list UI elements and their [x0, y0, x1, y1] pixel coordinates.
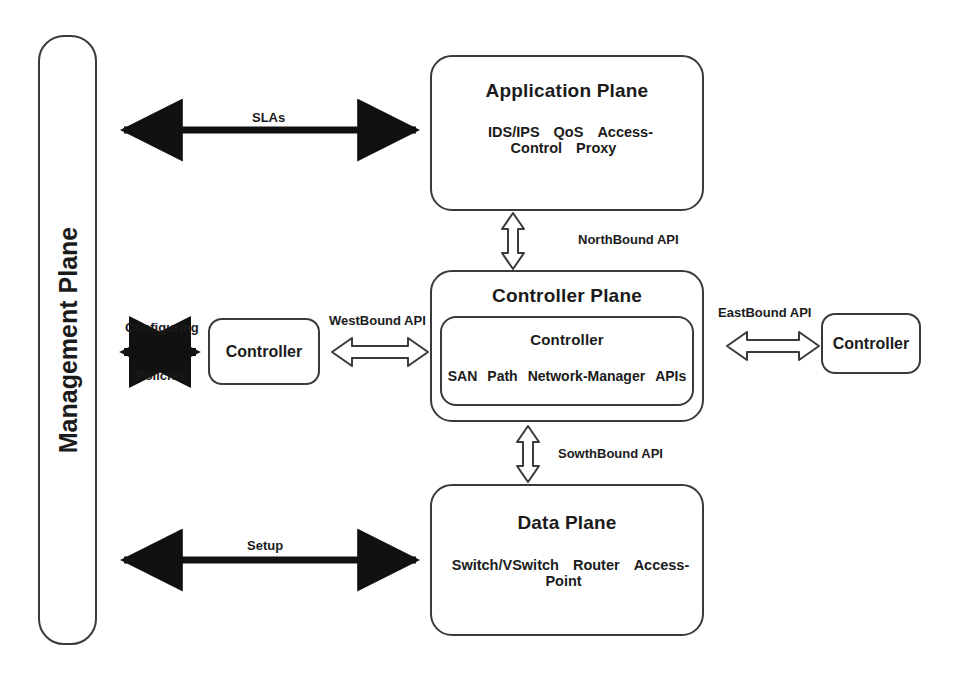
northbound-api-label: NorthBound API: [578, 232, 679, 247]
controller-item-network-manager: Network-Manager: [528, 368, 645, 384]
east-controller-label: Controller: [833, 335, 909, 353]
west-controller-box: Controller: [208, 318, 320, 385]
data-item-router: Router: [573, 557, 620, 573]
application-item-ids-ips: IDS/IPS: [488, 124, 540, 140]
controller-item-san: SAN: [448, 368, 478, 384]
west-controller-label: Controller: [226, 343, 302, 361]
application-plane-items: IDS/IPSQoSAccess-ControlProxy: [432, 124, 702, 156]
northbound-api-arrow: [498, 211, 538, 271]
sdn-architecture-diagram: Management Plane Application Plane IDS/I…: [0, 0, 965, 679]
controller-inner-box: Controller SANPathNetwork-ManagerAPIs: [440, 316, 694, 406]
westbound-api-label: WestBound API: [329, 313, 426, 328]
controller-plane-title: Controller Plane: [432, 285, 702, 307]
controller-inner-title: Controller: [442, 331, 692, 348]
application-plane-box: Application Plane IDS/IPSQoSAccess-Contr…: [430, 55, 704, 211]
controller-plane-box: Controller Plane Controller SANPathNetwo…: [430, 270, 704, 422]
policies-label: Policies: [136, 368, 185, 383]
application-plane-title: Application Plane: [432, 80, 702, 102]
controller-item-path: Path: [487, 368, 517, 384]
controller-inner-items: SANPathNetwork-ManagerAPIs: [442, 368, 692, 384]
application-item-proxy: Proxy: [576, 140, 616, 156]
data-item-switch-vswitch: Switch/VSwitch: [452, 557, 559, 573]
slas-label: SLAs: [252, 110, 285, 125]
management-plane-label: Management Plane: [53, 227, 82, 453]
data-plane-title: Data Plane: [432, 512, 702, 534]
southbound-api-arrow: [513, 424, 553, 484]
setup-label: Setup: [247, 538, 283, 553]
controller-item-apis: APIs: [655, 368, 686, 384]
data-plane-box: Data Plane Switch/VSwitchRouterAccess-Po…: [430, 484, 704, 636]
data-plane-items: Switch/VSwitchRouterAccess-Point: [432, 557, 702, 589]
eastbound-api-arrow: [725, 324, 821, 372]
application-item-qos: QoS: [554, 124, 584, 140]
east-controller-box: Controller: [821, 313, 921, 374]
eastbound-api-label: EastBound API: [718, 305, 811, 320]
configuring-label: Configuring: [125, 320, 199, 335]
westbound-api-arrow: [330, 330, 430, 378]
management-plane-box: Management Plane: [38, 35, 97, 645]
southbound-api-label: SowthBound API: [558, 446, 663, 461]
